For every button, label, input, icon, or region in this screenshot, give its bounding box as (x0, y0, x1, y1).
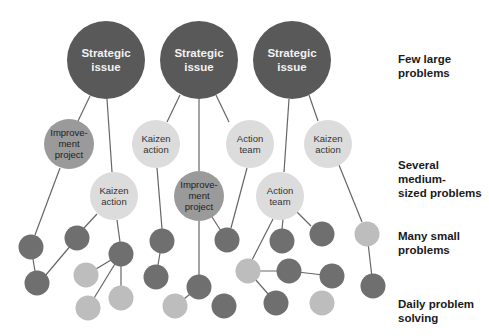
kaizen-action-node: Kaizen action (132, 120, 180, 168)
node-label: issue (184, 61, 213, 73)
node-label: issue (91, 61, 120, 73)
strategic-issue-node: Strategic issue (67, 21, 145, 99)
small-problem-node (150, 229, 175, 254)
node-label: Action (267, 185, 293, 196)
level-label-many-small: Many small problems (398, 229, 460, 257)
node-label: ment (58, 138, 79, 149)
node-label: action (143, 144, 168, 155)
node-label: issue (277, 61, 306, 73)
level-label-line: Few large (398, 52, 451, 66)
node-label: team (239, 144, 260, 155)
strategic-issue-node: Strategic issue (160, 21, 238, 99)
small-problem-node (65, 226, 90, 251)
node-label: Improve- (180, 179, 217, 190)
node-label: Strategic (174, 47, 224, 59)
node-label: Kaizen (99, 185, 128, 196)
node-label: Kaizen (141, 133, 170, 144)
small-problem-node (19, 235, 44, 260)
improvement-project-node: Improve- ment project (44, 119, 94, 169)
small-problem-node (25, 271, 50, 296)
level-label-daily: Daily problem solving (398, 297, 474, 325)
small-problem-node (361, 274, 386, 299)
node-label: team (269, 196, 290, 207)
node-label: Strategic (81, 47, 131, 59)
level-label-line: problems (398, 66, 451, 80)
level-label-line: solving (398, 311, 474, 325)
node-label: project (185, 201, 214, 212)
small-problem-node (320, 264, 345, 289)
action-team-node: Action team (256, 172, 304, 220)
node-label: Strategic (267, 47, 317, 59)
strategic-issue-node: Strategic issue (253, 21, 331, 99)
small-problem-node (215, 228, 240, 253)
node-label: action (315, 144, 340, 155)
level-label-line: problems (398, 243, 460, 257)
action-team-node: Action team (226, 120, 274, 168)
daily-problem-node (163, 294, 188, 319)
small-problem-node (187, 275, 212, 300)
small-problem-node (270, 229, 295, 254)
daily-problem-node (236, 259, 261, 284)
daily-problem-node (355, 222, 380, 247)
small-problem-node (310, 222, 335, 247)
daily-problem-node (74, 263, 99, 288)
level-label-medium: Several medium- sized problems (398, 158, 489, 200)
small-problem-node (264, 291, 289, 316)
level-label-line: sized problems (398, 186, 489, 200)
level-label-line: Many small (398, 229, 460, 243)
node-label: action (101, 196, 126, 207)
node-label: project (55, 149, 84, 160)
small-problem-node (212, 294, 237, 319)
node-label: Improve- (50, 127, 87, 138)
level-label-few-large: Few large problems (398, 52, 451, 80)
level-label-line: Several medium- (398, 158, 489, 186)
daily-problem-node (76, 296, 101, 321)
small-problem-node (277, 259, 302, 284)
small-problem-node (144, 265, 169, 290)
node-label: Action (237, 133, 263, 144)
node-label: ment (188, 190, 209, 201)
daily-problem-node (310, 291, 335, 316)
daily-problem-node (109, 286, 134, 311)
kaizen-action-node: Kaizen action (90, 172, 138, 220)
kaizen-action-node: Kaizen action (304, 120, 352, 168)
improvement-project-node: Improve- ment project (174, 171, 224, 221)
small-problem-nodes (19, 222, 386, 321)
level-label-line: Daily problem (398, 297, 474, 311)
small-problem-node (109, 242, 134, 267)
node-label: Kaizen (313, 133, 342, 144)
